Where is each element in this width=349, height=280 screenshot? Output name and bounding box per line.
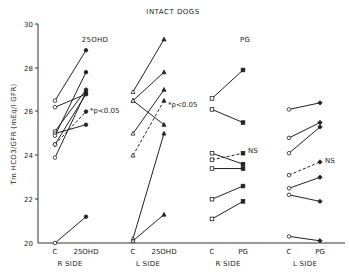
data-point-marker (162, 37, 166, 41)
y-ticks: 30 28 26 24 22 20 (24, 21, 38, 248)
y-axis-label: Tm HCO3/GFR (mEq/l GFR) (10, 83, 18, 185)
data-point-marker (53, 99, 57, 103)
svg-text:20: 20 (24, 240, 33, 248)
svg-text:R SIDE: R SIDE (215, 260, 240, 268)
ns-annotation-r: NS (248, 147, 258, 155)
mean-line (289, 162, 320, 175)
data-point-marker (53, 105, 57, 109)
subject-line (289, 127, 320, 153)
subject-line (133, 101, 164, 125)
subject-line (133, 215, 164, 241)
data-point-marker (318, 160, 322, 164)
data-point-marker (84, 70, 88, 74)
data-point-marker (241, 200, 245, 204)
svg-text:26: 26 (24, 108, 33, 116)
data-point-marker (287, 108, 291, 112)
svg-text:L SIDE: L SIDE (293, 260, 317, 268)
svg-text:C: C (210, 248, 215, 256)
data-point-marker (287, 173, 291, 177)
data-point-marker (241, 184, 245, 188)
chart-title: INTACT DOGS (146, 8, 199, 16)
data-point-marker (84, 90, 88, 94)
mean-line (55, 112, 86, 145)
x-ticks: C 25OHD C 25OHD C PG C PG R SIDE L SIDE … (53, 248, 325, 268)
data-point-marker (287, 235, 291, 239)
svg-text:R SIDE: R SIDE (57, 260, 82, 268)
svg-text:25OHD: 25OHD (151, 248, 176, 256)
subject-line (212, 109, 243, 122)
plot-area (53, 37, 322, 245)
data-point-marker (318, 239, 322, 243)
data-point-marker (318, 175, 322, 179)
data-point-marker (241, 121, 245, 125)
subject-line (289, 236, 320, 240)
data-point-marker (162, 131, 166, 135)
svg-text:C: C (131, 248, 136, 256)
data-point-marker (84, 48, 88, 52)
data-point-marker (210, 167, 214, 171)
svg-text:C: C (53, 248, 58, 256)
svg-text:22: 22 (24, 196, 33, 204)
svg-text:PG: PG (315, 248, 325, 256)
subject-line (133, 39, 164, 92)
chart: INTACT DOGS 30 28 26 24 22 20 Tm HCO3/GF… (0, 0, 349, 280)
svg-text:30: 30 (24, 21, 33, 29)
mean-line (133, 101, 164, 156)
subject-line (212, 70, 243, 98)
data-point-marker (162, 88, 166, 92)
data-point-marker (241, 68, 245, 72)
group-label-25ohd: 25OHD (82, 36, 109, 44)
subject-line (212, 153, 243, 164)
subject-line (289, 103, 320, 110)
sig-annotation-l: *p<0.05 (168, 101, 197, 109)
data-point-marker (84, 110, 88, 114)
data-point-marker (53, 156, 57, 160)
data-point-marker (210, 108, 214, 112)
data-point-marker (241, 167, 245, 171)
subject-line (55, 217, 86, 243)
data-point-marker (287, 193, 291, 197)
data-point-marker (53, 134, 57, 138)
data-point-marker (162, 98, 166, 102)
subject-line (212, 201, 243, 219)
data-point-marker (241, 162, 245, 166)
data-point-marker (210, 197, 214, 201)
data-point-marker (287, 136, 291, 140)
svg-text:24: 24 (24, 152, 33, 160)
data-point-marker (162, 212, 166, 216)
subject-line (212, 186, 243, 199)
subject-line (289, 123, 320, 138)
data-point-marker (53, 241, 57, 245)
data-point-marker (287, 186, 291, 190)
data-point-marker (318, 101, 322, 105)
subject-line (133, 134, 164, 239)
sig-annotation-r: *p<0.05 (90, 107, 119, 115)
data-point-marker (318, 199, 322, 203)
svg-text:L SIDE: L SIDE (136, 260, 160, 268)
data-point-marker (210, 158, 214, 162)
data-point-marker (241, 151, 245, 155)
data-point-marker (287, 151, 291, 155)
svg-text:C: C (287, 248, 292, 256)
ns-annotation-l: NS (325, 157, 335, 165)
data-point-marker (318, 120, 322, 124)
data-point-marker (84, 215, 88, 219)
subject-line (55, 50, 86, 100)
svg-text:28: 28 (24, 65, 33, 73)
subject-line (289, 195, 320, 202)
svg-text:25OHD: 25OHD (73, 248, 98, 256)
data-point-marker (53, 143, 57, 147)
data-point-marker (210, 151, 214, 155)
data-point-marker (84, 123, 88, 127)
data-point-marker (162, 70, 166, 74)
subject-line (289, 177, 320, 188)
group-label-pg: PG (240, 36, 250, 44)
data-point-marker (210, 97, 214, 101)
svg-text:PG: PG (238, 248, 248, 256)
data-point-marker (210, 217, 214, 221)
